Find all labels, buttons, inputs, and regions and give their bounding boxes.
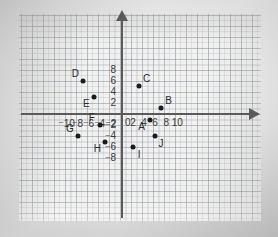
point-b <box>158 106 163 111</box>
y-axis-arrow-icon <box>116 10 128 21</box>
point-label-i: I <box>138 150 141 160</box>
y-tick-2: 2 <box>110 98 116 108</box>
point-d <box>81 78 86 83</box>
point-label-j: J <box>159 139 164 149</box>
point-label-a: A <box>138 122 145 132</box>
point-label-g: G <box>66 124 74 134</box>
point-label-f: F <box>89 113 95 123</box>
point-f <box>97 123 102 128</box>
point-i <box>131 145 136 150</box>
point-label-e: E <box>83 99 90 109</box>
point-g <box>75 134 80 139</box>
point-c <box>136 84 141 89</box>
point-label-h: H <box>94 144 101 154</box>
x-tick-6: 6 <box>152 118 158 128</box>
y-tick-4: 4 <box>110 87 116 97</box>
x-tick-neg8: –8 <box>73 118 84 129</box>
point-e <box>92 95 97 100</box>
point-label-c: C <box>143 74 150 84</box>
grid-paper <box>19 14 261 221</box>
coordinate-plane-figure: –10–8–6–4–20246810 8642–2–4–6–8 ABCDEFGH… <box>0 0 278 237</box>
y-tick-8: 8 <box>110 65 116 75</box>
point-h <box>103 139 108 144</box>
point-label-b: B <box>165 96 172 106</box>
y-axis-line <box>121 20 123 218</box>
y-tick-neg8: –8 <box>105 153 116 164</box>
point-label-d: D <box>72 69 79 79</box>
x-tick-2: 2 <box>130 118 136 128</box>
x-tick-10: 10 <box>172 118 183 128</box>
x-axis-line <box>21 113 251 115</box>
x-axis-arrow-icon <box>249 108 260 120</box>
point-a <box>147 117 152 122</box>
y-tick-6: 6 <box>110 76 116 86</box>
x-tick-8: 8 <box>163 118 169 128</box>
point-j <box>153 134 158 139</box>
